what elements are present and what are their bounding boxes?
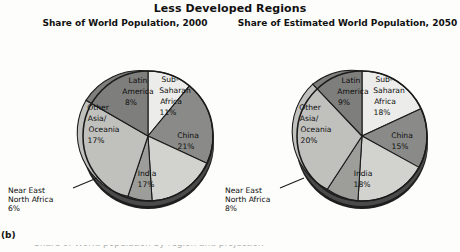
svg-text:15%: 15% [392,142,409,151]
callout-near-east-north-africa-2050: Near East North Africa 8% [225,186,270,214]
bottom-cutoff-text: Share of World population by region and … [34,245,264,248]
svg-text:Latin: Latin [129,76,148,85]
svg-text:8%: 8% [125,98,137,107]
svg-text:Other: Other [87,103,109,112]
callout-line-3: 6% [8,204,53,213]
panel-tag-b: (b) [1,230,16,240]
svg-text:Asia/: Asia/ [88,114,107,123]
svg-text:18%: 18% [354,180,371,189]
svg-text:17%: 17% [138,180,155,189]
svg-text:Africa: Africa [160,97,182,106]
svg-text:America: America [337,87,368,96]
callout-line-1: Near East [225,186,270,195]
svg-text:India: India [138,169,157,178]
figure-main-title: Less Developed Regions [0,2,460,15]
svg-text:20%: 20% [301,136,318,145]
callout-near-east-north-africa-2000: Near East North Africa 6% [8,186,53,214]
chart-title-right: Share of Estimated World Population, 205… [235,18,460,28]
svg-text:Latin: Latin [342,76,361,85]
chart-title-left: Share of World Population, 2000 [20,18,230,28]
svg-text:China: China [177,131,199,140]
callout-leader-line [73,178,97,188]
svg-text:Saharan: Saharan [159,86,191,95]
svg-text:Sub-: Sub- [161,75,178,84]
callout-line-3: 8% [225,204,270,213]
figure-less-developed-regions: Less Developed Regions Share of World Po… [0,0,460,252]
svg-text:China: China [391,131,413,140]
svg-text:21%: 21% [178,142,195,151]
svg-text:Africa: Africa [374,97,396,106]
callout-leader-line [280,178,304,188]
svg-text:17%: 17% [88,136,105,145]
svg-text:18%: 18% [374,108,391,117]
svg-text:11%: 11% [160,108,177,117]
callout-line-2: North Africa [225,195,270,204]
bottom-cutoff-strip: Share of World population by region and … [0,245,460,252]
svg-text:Oceania: Oceania [300,125,331,134]
svg-text:Saharan: Saharan [373,86,405,95]
svg-text:Sub-: Sub- [375,75,392,84]
svg-text:9%: 9% [338,98,350,107]
svg-text:America: America [122,87,153,96]
svg-text:Other: Other [299,103,321,112]
svg-text:India: India [354,169,373,178]
callout-line-2: North Africa [8,195,53,204]
callout-line-1: Near East [8,186,53,195]
svg-text:Oceania: Oceania [88,125,119,134]
svg-text:Asia/: Asia/ [300,114,319,123]
